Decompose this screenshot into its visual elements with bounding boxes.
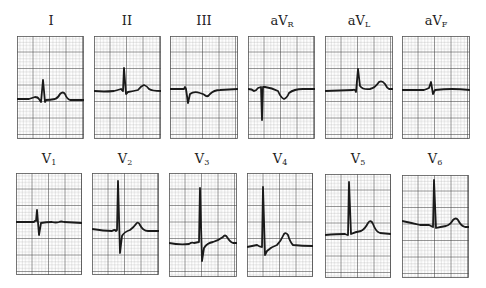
ecg-panel-V6: [402, 175, 469, 278]
lead-label-aVF: aVF: [401, 14, 471, 32]
ecg-panel-aVF: [402, 36, 470, 139]
ecg-panel-III: [170, 36, 238, 139]
lead-label-aVL: aVL: [324, 14, 394, 32]
lead-label-V1: V1: [14, 152, 84, 170]
ecg-panel-V2: [92, 173, 159, 275]
ecg-panel-II: [94, 36, 161, 139]
lead-label-V4: V4: [245, 152, 315, 170]
lead-label-V5: V5: [323, 152, 393, 170]
ecg-panel-V1: [16, 173, 82, 275]
ecg-panel-aVR: [248, 36, 315, 139]
ecg-panel-V5: [325, 174, 391, 278]
lead-label-V6: V6: [400, 152, 470, 170]
lead-label-aVR: aVR: [247, 14, 317, 32]
ecg-panel-aVL: [325, 36, 393, 139]
ecg-panel-V4: [247, 173, 313, 277]
lead-label-I: I: [16, 14, 86, 32]
ecg-panel-V3: [169, 173, 237, 277]
lead-label-III: III: [169, 14, 239, 32]
lead-label-II: II: [92, 14, 162, 32]
lead-label-V2: V2: [90, 152, 160, 170]
lead-label-V3: V3: [167, 152, 237, 170]
ecg-panel-I: [17, 36, 84, 139]
